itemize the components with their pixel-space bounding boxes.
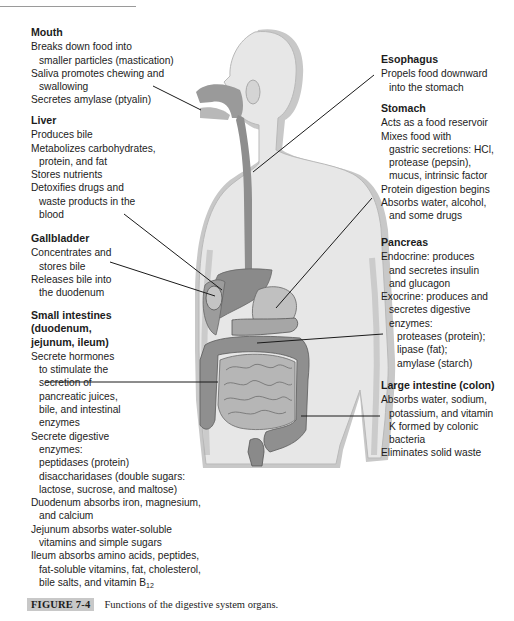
small-intestines-title: jejunum, ileum): [31, 336, 201, 349]
pancreas-line: amylase (starch): [381, 357, 488, 370]
pancreas-line: and glucagon: [381, 277, 488, 290]
small-intestines-line: to stimulate the: [31, 363, 201, 376]
large-intestine-line: Eliminates solid waste: [381, 446, 495, 459]
pancreas-line: proteases (protein);: [381, 330, 488, 343]
small-intestines-line: Jejunum absorbs water-soluble: [31, 523, 201, 536]
pancreas-line: Exocrine: produces and: [381, 290, 488, 303]
stomach-line: Acts as a food reservoir: [381, 116, 494, 129]
mouth-line: Saliva promotes chewing and: [31, 67, 174, 80]
liver-line: protein, and fat: [31, 155, 156, 168]
mouth-line: smaller particles (mastication): [31, 54, 174, 67]
small-intestines-line: pancreatic juices,: [31, 390, 201, 403]
liver-line: Stores nutrients: [31, 168, 156, 181]
mouth-line: Secretes amylase (ptyalin): [31, 93, 174, 106]
small-intestines-line: and calcium: [31, 509, 201, 522]
small-intestines-line: peptidases (protein): [31, 456, 201, 469]
vitamin-b-subscript: 12: [146, 582, 154, 589]
vitamin-b-text: bile salts, and vitamin B: [39, 577, 146, 588]
liver-line: Metabolizes carbohydrates,: [31, 142, 156, 155]
small-intestines-annotation: Small intestines (duodenum, jejunum, ile…: [31, 309, 201, 592]
stomach-line: gastric secretions: HCl,: [381, 143, 494, 156]
figure-caption: FIGURE 7-4 Functions of the digestive sy…: [27, 598, 278, 611]
stomach-annotation: Stomach Acts as a food reservoir Mixes f…: [381, 102, 494, 223]
gallbladder-line: Concentrates and: [31, 246, 111, 259]
pancreas-title: Pancreas: [381, 236, 488, 249]
pancreas-line: lipase (fat);: [381, 343, 488, 356]
liver-annotation: Liver Produces bile Metabolizes carbohyd…: [31, 114, 156, 221]
small-intestines-line: Secrete digestive: [31, 430, 201, 443]
small-intestines-line: fat-soluble vitamins, fat, cholesterol,: [31, 563, 201, 576]
mouth-title: Mouth: [31, 26, 174, 39]
large-intestine-line: Absorbs water, sodium,: [381, 393, 495, 406]
gallbladder: [206, 286, 222, 310]
stomach-line: Protein digestion begins: [381, 183, 494, 196]
small-intestines-line: secretion of: [31, 376, 201, 389]
liver-line: Detoxifies drugs and: [31, 181, 156, 194]
small-intestines-line: vitamins and simple sugars: [31, 536, 201, 549]
stomach-line: Mixes food with: [381, 130, 494, 143]
small-intestines-line: lactose, sucrose, and maltose): [31, 483, 201, 496]
figure-caption-text: Functions of the digestive system organs…: [104, 599, 278, 610]
gallbladder-line: the duodenum: [31, 286, 111, 299]
esophagus-line: Propels food downward: [381, 67, 487, 80]
large-intestine-line: bacteria: [381, 433, 495, 446]
liver-line: Produces bile: [31, 128, 156, 141]
small-intestines-line: Secrete hormones: [31, 350, 201, 363]
small-intestines-title: Small intestines: [31, 309, 201, 322]
liver-line: blood: [31, 208, 156, 221]
gallbladder-line: Releases bile into: [31, 273, 111, 286]
small-intestines-line: enzymes: [31, 416, 201, 429]
small-intestines-line: disaccharidases (double sugars:: [31, 470, 201, 483]
stomach-title: Stomach: [381, 102, 494, 115]
stomach-line: and some drugs: [381, 209, 494, 222]
large-intestine-line: K formed by colonic: [381, 420, 495, 433]
large-intestine-annotation: Large intestine (colon) Absorbs water, s…: [381, 379, 495, 460]
esophagus-line: into the stomach: [381, 81, 487, 94]
liver-title: Liver: [31, 114, 156, 127]
small-intestines-line: Ileum absorbs amino acids, peptides,: [31, 549, 201, 562]
pancreas-line: and secretes insulin: [381, 264, 488, 277]
ear: [246, 80, 260, 104]
mouth-line: swallowing: [31, 80, 174, 93]
figure-label: FIGURE 7-4: [27, 598, 94, 611]
gallbladder-title: Gallbladder: [31, 232, 111, 245]
esophagus-annotation: Esophagus Propels food downward into the…: [381, 53, 487, 94]
pancreas-line: secretes digestive: [381, 303, 488, 316]
esophagus-title: Esophagus: [381, 53, 487, 66]
stomach-line: Absorbs water, alcohol,: [381, 196, 494, 209]
pancreas-annotation: Pancreas Endocrine: produces and secrete…: [381, 236, 488, 370]
pancreas-line: Endocrine: produces: [381, 250, 488, 263]
stomach-line: mucus, intrinsic factor: [381, 169, 494, 182]
mouth-annotation: Mouth Breaks down food into smaller part…: [31, 26, 174, 107]
small-intestines-line: bile, and intestinal: [31, 403, 201, 416]
stomach-line: protease (pepsin),: [381, 156, 494, 169]
tongue: [200, 107, 230, 120]
large-intestine-title: Large intestine (colon): [381, 379, 495, 392]
small-intestines-line: Duodenum absorbs iron, magnesium,: [31, 496, 201, 509]
liver-line: waste products in the: [31, 195, 156, 208]
pancreas-line: enzymes:: [381, 317, 488, 330]
small-intestines-line: enzymes:: [31, 443, 201, 456]
gallbladder-annotation: Gallbladder Concentrates and stores bile…: [31, 232, 111, 299]
large-intestine-line: potassium, and vitamin: [381, 407, 495, 420]
mouth-line: Breaks down food into: [31, 40, 174, 53]
small-intestines-title: (duodenum,: [31, 322, 201, 335]
small-intestines-line: bile salts, and vitamin B12: [31, 576, 201, 592]
gallbladder-line: stores bile: [31, 260, 111, 273]
